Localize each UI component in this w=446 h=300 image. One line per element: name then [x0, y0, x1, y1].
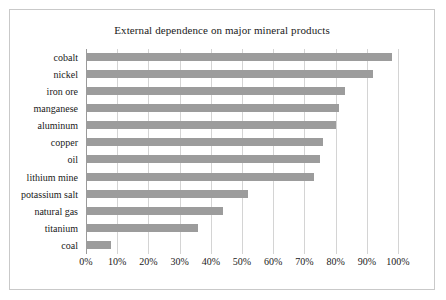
- bar: [86, 224, 198, 232]
- y-axis-label: lithium mine: [10, 169, 82, 186]
- bar-row: [86, 100, 398, 117]
- x-axis-tick-label: 40%: [202, 256, 220, 267]
- x-axis-tick-label: 90%: [358, 256, 376, 267]
- x-axis-tick-label: 20%: [139, 256, 157, 267]
- bar: [86, 104, 339, 112]
- x-axis-tick-label: 60%: [264, 256, 282, 267]
- bar-row: [86, 134, 398, 151]
- y-axis-label: titanium: [10, 220, 82, 237]
- bar-row: [86, 151, 398, 168]
- y-axis-label: aluminum: [10, 117, 82, 134]
- x-axis-tick-label: 80%: [326, 256, 344, 267]
- bar: [86, 173, 314, 181]
- bar: [86, 155, 320, 163]
- bar: [86, 138, 323, 146]
- bar-row: [86, 169, 398, 186]
- bar-row: [86, 66, 398, 83]
- x-axis-tick-label: 0%: [79, 256, 92, 267]
- bar: [86, 207, 223, 215]
- bar: [86, 53, 392, 61]
- bar: [86, 241, 111, 249]
- bar-series: [86, 49, 398, 254]
- bar-row: [86, 203, 398, 220]
- plot-area: [86, 49, 398, 254]
- y-axis-label: cobalt: [10, 49, 82, 66]
- x-axis-tick-label: 10%: [108, 256, 126, 267]
- bar: [86, 87, 345, 95]
- y-axis-label: nickel: [10, 66, 82, 83]
- bar-row: [86, 220, 398, 237]
- bar: [86, 121, 336, 129]
- chart-frame: External dependence on major mineral pro…: [9, 9, 435, 290]
- bar-row: [86, 117, 398, 134]
- bar-row: [86, 49, 398, 66]
- y-axis-label: coal: [10, 237, 82, 254]
- x-axis-tick-labels: 0%10%20%30%40%50%60%70%80%90%100%: [86, 256, 398, 272]
- y-axis-label: oil: [10, 151, 82, 168]
- bar: [86, 70, 373, 78]
- y-axis-label: manganese: [10, 100, 82, 117]
- bar-row: [86, 83, 398, 100]
- x-axis-tick-label: 70%: [295, 256, 313, 267]
- y-axis-category-labels: cobaltnickeliron oremanganesealuminumcop…: [10, 49, 82, 254]
- y-axis-label: iron ore: [10, 83, 82, 100]
- chart-title: External dependence on major mineral pro…: [10, 24, 434, 36]
- y-axis-label: copper: [10, 134, 82, 151]
- y-axis-label: potassium salt: [10, 186, 82, 203]
- x-axis-tick-label: 50%: [233, 256, 251, 267]
- bar-row: [86, 186, 398, 203]
- x-axis-tick-label: 100%: [386, 256, 409, 267]
- y-axis-label: natural gas: [10, 203, 82, 220]
- x-axis-tick-label: 30%: [170, 256, 188, 267]
- bar: [86, 190, 248, 198]
- gridline: [398, 49, 399, 254]
- bar-row: [86, 237, 398, 254]
